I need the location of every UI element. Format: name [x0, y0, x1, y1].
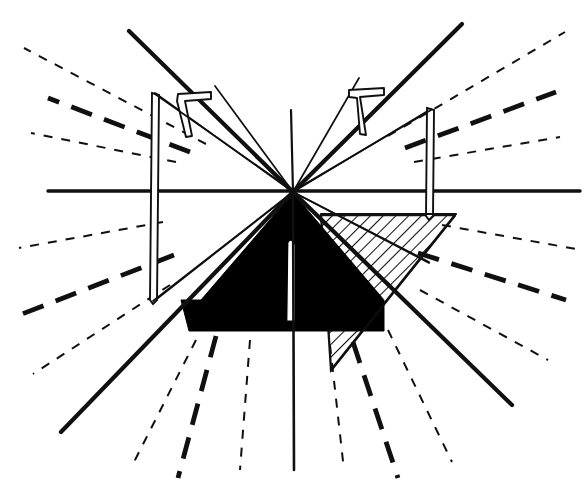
right-post: [426, 108, 434, 220]
left-post: [150, 93, 159, 304]
center-lower-stem: [293, 192, 294, 470]
figure-root: [0, 0, 587, 485]
figure-canvas: [0, 0, 587, 485]
